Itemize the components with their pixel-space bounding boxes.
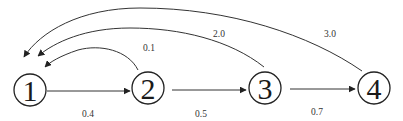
edge-weight-label: 0.4 xyxy=(82,109,94,119)
edge-3-to-4: 0.7 xyxy=(290,89,355,117)
node-label: 4 xyxy=(367,72,382,105)
edge-weight-label: 2.0 xyxy=(213,29,225,39)
node-label: 2 xyxy=(141,72,156,105)
edge-weight-label: 0.7 xyxy=(311,107,323,117)
edge-2-to-3: 0.5 xyxy=(172,90,246,119)
node-label: 3 xyxy=(258,72,273,105)
node-4: 4 xyxy=(358,72,390,105)
edge-weight-label: 3.0 xyxy=(324,29,336,39)
edge-1-to-2: 0.4 xyxy=(47,91,130,119)
node-1: 1 xyxy=(14,74,46,107)
node-3: 3 xyxy=(249,72,281,105)
node-2: 2 xyxy=(132,72,164,105)
edge-4-to-1: 3.0 xyxy=(24,8,362,71)
edge-weight-label: 0.1 xyxy=(143,43,155,53)
graph-diagram: 0.4 0.5 0.7 0.1 2.0 3.0 1 2 xyxy=(0,0,403,121)
node-label: 1 xyxy=(23,74,38,107)
edge-2-to-1: 0.1 xyxy=(45,43,155,70)
edge-weight-label: 0.5 xyxy=(195,109,207,119)
